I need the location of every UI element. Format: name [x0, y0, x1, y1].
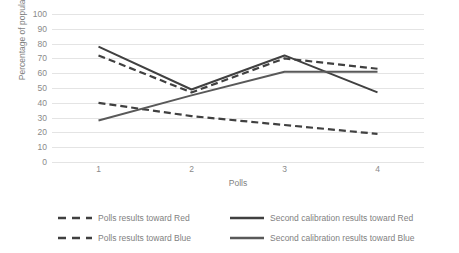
legend-swatch-icon [58, 233, 92, 243]
y-axis-tick-label: 70 [38, 53, 47, 63]
x-axis-title: Polls [52, 178, 424, 188]
x-axis-tick-label: 3 [282, 164, 287, 174]
series-line [99, 72, 378, 121]
x-axis-tick-label: 1 [96, 164, 101, 174]
y-axis-tick-label: 30 [38, 113, 47, 123]
legend-label: Polls results toward Blue [98, 234, 191, 243]
legend-swatch-icon [230, 213, 264, 223]
y-axis-tick-label: 50 [38, 83, 47, 93]
line-chart: Percentage of population 010203040506070… [0, 0, 459, 253]
y-axis-tick-label: 20 [38, 127, 47, 137]
chart-legend: Polls results toward RedSecond calibrati… [58, 208, 448, 248]
y-axis-tick-label: 40 [38, 98, 47, 108]
y-axis-tick-label: 0 [42, 157, 47, 167]
legend-item[interactable]: Second calibration results toward Red [230, 213, 448, 223]
legend-label: Polls results toward Red [98, 214, 190, 223]
legend-label: Second calibration results toward Blue [270, 234, 415, 243]
y-axis-tick-label: 100 [33, 9, 47, 19]
legend-item[interactable]: Polls results toward Red [58, 213, 230, 223]
x-axis-tick-label: 2 [189, 164, 194, 174]
series-line [99, 103, 378, 134]
series-lines [52, 14, 424, 162]
legend-item[interactable]: Polls results toward Blue [58, 233, 230, 243]
y-axis-tick-label: 60 [38, 68, 47, 78]
legend-item[interactable]: Second calibration results toward Blue [230, 233, 448, 243]
plot-area: 0102030405060708090100 1234 [52, 14, 424, 162]
x-axis-tick-label: 4 [375, 164, 380, 174]
legend-swatch-icon [230, 233, 264, 243]
series-line [99, 55, 378, 92]
legend-label: Second calibration results toward Red [270, 214, 413, 223]
y-axis-title: Percentage of population [17, 0, 27, 103]
y-axis-tick-label: 90 [38, 24, 47, 34]
legend-swatch-icon [58, 213, 92, 223]
gridline [52, 162, 424, 163]
y-axis-tick-label: 10 [38, 142, 47, 152]
y-axis-tick-label: 80 [38, 39, 47, 49]
series-line [99, 47, 378, 93]
